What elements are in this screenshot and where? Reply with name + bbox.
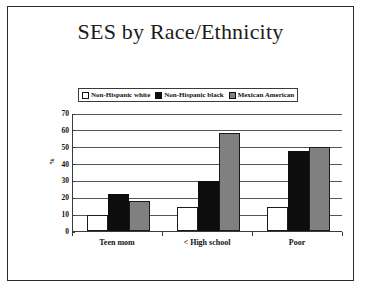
y-axis-tick-mark	[72, 181, 75, 182]
y-axis-tick-label: 0	[49, 228, 69, 235]
legend-entry: Non-Hispanic black	[155, 91, 223, 99]
bar-chart: Non-Hispanic whiteNon-Hispanic blackMexi…	[8, 77, 355, 272]
legend-swatch-icon	[155, 92, 162, 99]
x-axis-category-label: Poor	[252, 238, 342, 247]
bar	[129, 201, 150, 231]
legend-label: Mexican American	[238, 91, 295, 99]
bar	[87, 215, 108, 231]
bar	[288, 151, 309, 231]
y-axis-tick-label: 10	[49, 211, 69, 218]
legend-entry: Mexican American	[229, 91, 295, 99]
y-axis-tick-label: 60	[49, 127, 69, 134]
bar	[177, 207, 198, 231]
y-axis-tick-label: 40	[49, 161, 69, 168]
legend-label: Non-Hispanic white	[91, 91, 150, 99]
legend-swatch-icon	[82, 92, 89, 99]
legend-entry: Non-Hispanic white	[82, 91, 150, 99]
bar	[108, 194, 129, 231]
bar	[309, 147, 330, 231]
y-axis-tick-mark	[72, 164, 75, 165]
bar-group	[253, 114, 343, 231]
legend-swatch-icon	[229, 92, 236, 99]
bar	[219, 133, 240, 231]
y-axis-tick-mark	[72, 114, 75, 115]
page-title: SES by Race/Ethnicity	[8, 19, 353, 45]
slide-frame: SES by Race/Ethnicity Non-Hispanic white…	[7, 6, 354, 281]
x-axis-tick-mark	[342, 232, 343, 236]
x-axis-category-label: < High school	[162, 238, 252, 247]
bar	[267, 207, 288, 231]
y-axis-tick-mark	[72, 147, 75, 148]
plot-area	[72, 114, 342, 232]
chart-legend: Non-Hispanic whiteNon-Hispanic blackMexi…	[78, 88, 298, 102]
x-axis-category-label: Teen mom	[72, 238, 162, 247]
y-axis-tick-mark	[72, 130, 75, 131]
y-axis-tick-label: 50	[49, 144, 69, 151]
bar	[198, 181, 219, 231]
x-axis-tick-mark	[252, 232, 253, 236]
legend-label: Non-Hispanic black	[164, 91, 223, 99]
bar-group	[73, 114, 163, 231]
x-axis-tick-mark	[72, 232, 73, 236]
y-axis-tick-label: 30	[49, 177, 69, 184]
bar-group	[163, 114, 253, 231]
y-axis-tick-label: 70	[49, 110, 69, 117]
y-axis-tick-label: 20	[49, 194, 69, 201]
y-axis-tick-labels: 706050403020100	[48, 114, 69, 232]
y-axis-tick-mark	[72, 198, 75, 199]
y-axis-tick-mark	[72, 215, 75, 216]
x-axis-tick-mark	[162, 232, 163, 236]
